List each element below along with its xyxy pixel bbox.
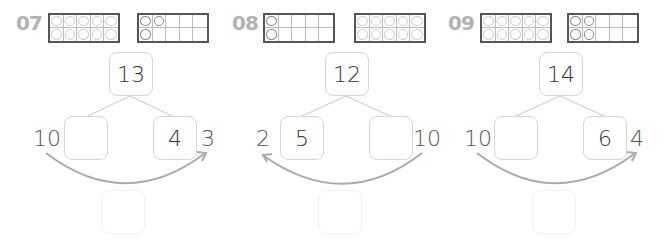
left-label: 2	[256, 126, 270, 151]
right-part-box[interactable]	[369, 116, 413, 160]
right-label: 4	[630, 126, 644, 151]
right-part-box: 6	[583, 116, 627, 160]
exercise-09: 09 14 6 10 4	[440, 0, 662, 252]
total-box: 14	[539, 52, 583, 96]
right-label: 10	[413, 126, 441, 151]
answer-box[interactable]	[532, 190, 576, 234]
exercise-07: 07 13 4 10 3	[0, 0, 222, 252]
right-part-box: 4	[153, 116, 197, 160]
left-part-box[interactable]	[64, 116, 108, 160]
answer-box[interactable]	[101, 190, 145, 234]
left-part-box: 5	[280, 116, 324, 160]
total-box: 12	[325, 52, 369, 96]
exercise-08: 08 12 5 2 10	[220, 0, 442, 252]
left-label: 10	[33, 126, 61, 151]
left-part-box[interactable]	[494, 116, 538, 160]
right-label: 3	[201, 126, 215, 151]
total-box: 13	[109, 52, 153, 96]
answer-box[interactable]	[318, 190, 362, 234]
left-label: 10	[464, 126, 492, 151]
